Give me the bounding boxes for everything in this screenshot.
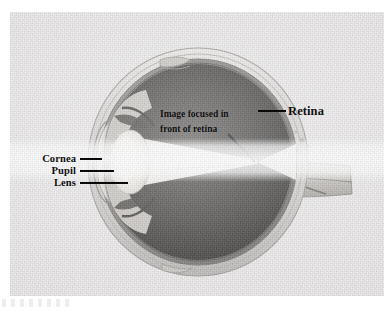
annotation-line-1: Image focused in — [160, 107, 256, 122]
label-retina: Retina — [288, 104, 324, 119]
leader-line-pupil — [80, 170, 114, 172]
lens — [110, 130, 150, 194]
label-cornea: Cornea — [8, 153, 76, 164]
page-bottom-faint-marks — [2, 299, 72, 307]
annotation-image-focused: Image focused in front of retina — [160, 107, 256, 137]
label-pupil: Pupil — [8, 165, 76, 176]
annotation-line-2: front of retina — [160, 122, 256, 137]
leader-line-cornea — [80, 158, 102, 160]
leader-line-retina — [258, 110, 286, 112]
figure-page: Retina Cornea Pupil Lens Image focused i… — [0, 0, 384, 311]
leader-line-lens — [80, 182, 128, 184]
label-lens: Lens — [8, 177, 76, 188]
